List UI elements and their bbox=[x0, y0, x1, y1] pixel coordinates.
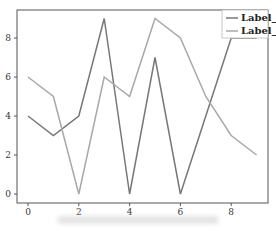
svg-text:0: 0 bbox=[5, 189, 11, 199]
svg-text:0: 0 bbox=[25, 207, 31, 217]
line-chart: 02468 02468 Label_1 Label_2 bbox=[0, 0, 276, 231]
legend: Label_1 Label_2 bbox=[222, 10, 276, 38]
svg-text:8: 8 bbox=[5, 33, 11, 43]
svg-text:2: 2 bbox=[5, 150, 11, 160]
x-axis: 02468 bbox=[25, 203, 234, 217]
legend-label-1: Label_1 bbox=[241, 12, 276, 23]
series-lines bbox=[28, 19, 257, 195]
svg-text:8: 8 bbox=[228, 207, 234, 217]
svg-text:6: 6 bbox=[5, 72, 11, 82]
svg-text:4: 4 bbox=[5, 111, 11, 121]
legend-label-2: Label_2 bbox=[241, 25, 276, 36]
y-axis: 02468 bbox=[5, 33, 17, 199]
figure-caption bbox=[58, 216, 218, 224]
